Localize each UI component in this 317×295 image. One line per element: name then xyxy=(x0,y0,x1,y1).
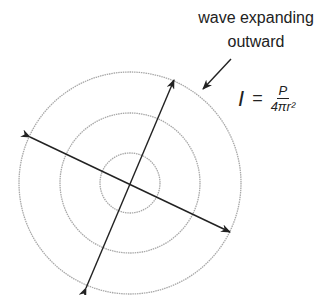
pointer-arrow xyxy=(203,59,231,89)
denominator: 4πr² xyxy=(271,99,296,113)
wave-label-line1: wave expanding xyxy=(196,8,316,28)
intensity-symbol: I xyxy=(238,86,244,112)
diameter-arrow-shallow xyxy=(30,137,230,232)
numerator: P xyxy=(277,84,290,99)
wave-label-line2: outward xyxy=(196,32,316,52)
intensity-formula: I = P 4πr² xyxy=(238,84,295,113)
equals-sign: = xyxy=(252,88,263,109)
fraction: P 4πr² xyxy=(271,84,296,113)
wave-label: wave expanding outward xyxy=(196,8,316,52)
